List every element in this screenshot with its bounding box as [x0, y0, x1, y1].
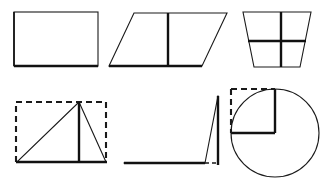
trapezoid-outline: [243, 12, 311, 67]
figure-rectangle: [14, 12, 98, 66]
geometry-figure-sheet: [0, 0, 328, 179]
figure-obtuse-triangle: [124, 96, 218, 165]
obtuse-triangle-sides: [124, 96, 218, 163]
figure-triangle-in-rectangle: [16, 102, 107, 162]
rectangle-outline: [14, 12, 98, 66]
figure-circle-with-square: [231, 89, 319, 177]
figures-canvas: [0, 0, 328, 179]
figure-parallelogram: [109, 13, 227, 66]
inscribed-triangle-sides: [17, 102, 106, 162]
figure-trapezoid: [243, 12, 311, 67]
